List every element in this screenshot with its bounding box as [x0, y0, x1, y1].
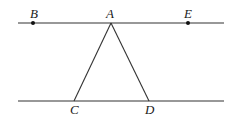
label-b: B — [30, 6, 38, 21]
label-e: E — [183, 6, 192, 21]
label-a: A — [105, 6, 114, 21]
point-e-dot — [186, 21, 190, 25]
label-c: C — [70, 102, 79, 117]
segment-ac — [74, 23, 111, 101]
point-b-dot — [31, 21, 35, 25]
label-d: D — [144, 102, 155, 117]
geometry-diagram: B A E C D — [0, 0, 234, 118]
segment-ad — [111, 23, 149, 101]
